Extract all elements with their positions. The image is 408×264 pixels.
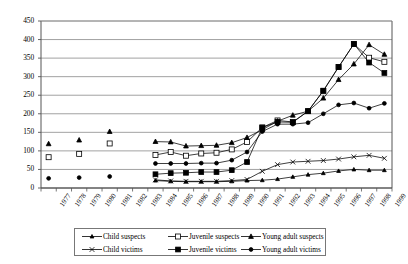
data-point xyxy=(77,151,82,156)
data-point xyxy=(169,162,173,166)
data-point xyxy=(367,55,372,60)
data-point xyxy=(336,65,341,70)
data-point xyxy=(245,139,250,144)
legend-item-young-adult-suspects[interactable]: Young adult suspects xyxy=(240,231,324,242)
legend-marker-open-square-icon xyxy=(167,231,189,242)
legend-marker xyxy=(90,235,94,239)
y-tick-label: 0 xyxy=(6,183,34,192)
legend-item-young-adult-victims[interactable]: Young adult victims xyxy=(240,244,321,255)
data-point xyxy=(382,168,386,172)
y-tick-label: 200 xyxy=(6,109,34,118)
legend-item-juvenile-victims[interactable]: Juvenile victims xyxy=(167,244,237,255)
data-point xyxy=(214,150,219,155)
legend-marker xyxy=(249,248,253,252)
data-point xyxy=(382,52,387,57)
data-point xyxy=(229,147,234,152)
data-point xyxy=(306,109,311,114)
data-point xyxy=(382,59,387,64)
data-point xyxy=(184,170,189,175)
data-point xyxy=(229,168,234,173)
data-point xyxy=(154,162,158,166)
legend-marker xyxy=(176,247,181,252)
legend: Child suspectsJuvenile suspectsYoung adu… xyxy=(74,228,326,256)
data-point xyxy=(46,141,51,146)
data-point xyxy=(184,162,188,166)
data-point xyxy=(382,101,386,105)
legend-item-juvenile-suspects[interactable]: Juvenile suspects xyxy=(167,231,239,242)
data-point xyxy=(215,161,219,165)
data-point xyxy=(367,106,371,110)
series-line xyxy=(155,44,384,174)
data-point xyxy=(77,138,82,143)
data-point xyxy=(153,172,158,177)
data-point xyxy=(108,175,112,179)
data-point xyxy=(199,151,204,156)
legend-row-bottom: Child victimsJuvenile victimsYoung adult… xyxy=(75,243,325,256)
series-line xyxy=(155,44,384,156)
data-point xyxy=(260,130,264,134)
legend-marker xyxy=(176,234,181,239)
legend-marker-filled-square-icon xyxy=(167,244,189,255)
y-tick-label: 300 xyxy=(6,72,34,81)
legend-item-child-suspects[interactable]: Child suspects xyxy=(81,231,145,242)
data-point xyxy=(291,122,295,126)
legend-marker-cross-icon xyxy=(81,244,103,255)
data-point xyxy=(153,139,158,144)
legend-item-child-victims[interactable]: Child victims xyxy=(81,244,143,255)
data-point xyxy=(276,122,280,126)
legend-marker-triangle-icon xyxy=(240,231,262,242)
data-point xyxy=(46,155,51,160)
data-point xyxy=(47,176,51,180)
data-point xyxy=(337,103,341,107)
series-layer xyxy=(46,42,387,184)
data-point xyxy=(168,150,173,155)
y-tick-label: 100 xyxy=(6,146,34,155)
data-point xyxy=(367,60,372,65)
data-point xyxy=(168,171,173,176)
data-point xyxy=(230,158,234,162)
legend-marker-filled-circle-icon xyxy=(240,244,262,255)
series-young-adult-victims xyxy=(47,101,387,180)
data-point xyxy=(321,112,325,116)
y-tick-label: 350 xyxy=(6,53,34,62)
data-point xyxy=(245,135,250,140)
data-point xyxy=(306,121,310,125)
y-tick-label: 450 xyxy=(6,16,34,25)
data-point xyxy=(260,178,264,182)
data-point xyxy=(107,141,112,146)
data-point xyxy=(183,153,188,158)
data-point xyxy=(153,152,158,157)
legend-label: Child victims xyxy=(103,245,143,254)
legend-label: Juvenile victims xyxy=(189,245,237,254)
data-point xyxy=(352,101,356,105)
data-point xyxy=(260,125,265,130)
data-point xyxy=(291,175,295,179)
data-point xyxy=(77,176,81,180)
data-point xyxy=(382,71,387,76)
series-line xyxy=(155,155,384,181)
data-point xyxy=(107,129,112,134)
y-tick-label: 150 xyxy=(6,127,34,136)
data-point xyxy=(321,88,326,93)
y-tick-label: 250 xyxy=(6,90,34,99)
data-point xyxy=(245,150,249,154)
legend-label: Young adult suspects xyxy=(262,232,324,241)
y-tick-label: 50 xyxy=(6,164,34,173)
legend-label: Juvenile suspects xyxy=(189,232,239,241)
data-point xyxy=(306,173,310,177)
data-point xyxy=(199,170,204,175)
data-point xyxy=(245,160,250,165)
legend-marker-triangle-small-icon xyxy=(81,231,103,242)
data-point xyxy=(352,167,356,171)
data-point xyxy=(276,177,280,181)
data-point xyxy=(367,42,372,47)
x-axis-ticks xyxy=(41,188,392,192)
data-point xyxy=(351,42,356,47)
data-point xyxy=(321,171,325,175)
legend-label: Young adult victims xyxy=(262,245,321,254)
series-line xyxy=(155,169,384,181)
legend-label: Child suspects xyxy=(103,232,145,241)
y-tick-label: 400 xyxy=(6,35,34,44)
